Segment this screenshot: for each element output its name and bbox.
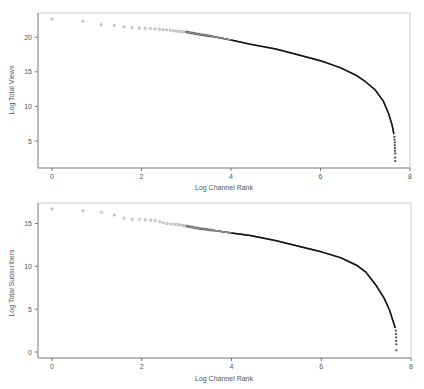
data-point xyxy=(51,18,53,20)
data-point xyxy=(393,136,395,138)
data-point xyxy=(173,223,175,225)
data-point xyxy=(149,27,151,29)
data-point xyxy=(123,217,125,219)
data-point xyxy=(144,27,146,29)
y-tick-label: 5 xyxy=(28,138,32,145)
data-point xyxy=(162,222,164,224)
data-point xyxy=(395,340,397,342)
x-tick-label: 0 xyxy=(50,363,54,370)
data-point xyxy=(396,349,398,351)
data-point xyxy=(175,30,177,32)
data-point xyxy=(394,153,396,155)
data-point xyxy=(396,343,398,345)
data-point xyxy=(394,144,396,146)
x-tick-label: 2 xyxy=(140,173,144,180)
x-tick-label: 8 xyxy=(408,173,412,180)
data-point xyxy=(138,218,140,220)
data-point xyxy=(394,160,396,162)
data-curve-light xyxy=(186,32,231,40)
data-point xyxy=(131,26,133,28)
y-axis-label: Log Total Views xyxy=(8,65,16,114)
data-curve-halo xyxy=(186,32,394,134)
data-point xyxy=(100,24,102,26)
data-point xyxy=(154,28,156,30)
plot-log-total-subscribers: 02468051015 Log Channel Rank Log Total S… xyxy=(0,195,424,389)
data-point xyxy=(394,147,396,149)
data-point xyxy=(100,211,102,213)
y-tick-label: 20 xyxy=(24,34,32,41)
data-point xyxy=(169,29,171,31)
y-tick-label: 15 xyxy=(24,220,32,227)
figure: 024685101520 Log Channel Rank Log Total … xyxy=(0,0,424,389)
data-point xyxy=(154,219,156,221)
data-point xyxy=(150,219,152,221)
x-tick-label: 4 xyxy=(229,173,233,180)
data-point xyxy=(162,29,164,31)
y-tick-label: 0 xyxy=(28,349,32,356)
data-curve xyxy=(187,226,396,328)
data-point xyxy=(395,330,397,332)
x-tick-label: 4 xyxy=(230,363,234,370)
data-point xyxy=(113,24,115,26)
data-point xyxy=(113,214,115,216)
data-point xyxy=(178,224,180,226)
data-curve-halo xyxy=(187,226,396,328)
plot-area: 024685101520 xyxy=(24,13,412,180)
data-point xyxy=(183,225,185,227)
x-tick-label: 6 xyxy=(319,173,323,180)
data-point xyxy=(144,219,146,221)
x-axis-label: Log Channel Rank xyxy=(195,375,253,383)
data-point xyxy=(158,28,160,30)
data-point xyxy=(175,223,177,225)
data-point xyxy=(51,208,53,210)
data-point xyxy=(159,221,161,223)
y-axis-label: Log Total Subscribers xyxy=(8,249,16,317)
data-point xyxy=(394,141,396,143)
y-tick-label: 10 xyxy=(24,263,32,270)
data-point xyxy=(394,139,396,141)
x-tick-label: 0 xyxy=(50,173,54,180)
data-point xyxy=(82,210,84,212)
data-point xyxy=(131,218,133,220)
data-point xyxy=(82,20,84,22)
data-point xyxy=(138,27,140,29)
data-point xyxy=(181,224,183,226)
data-curve-light xyxy=(187,226,232,233)
data-point xyxy=(169,223,171,225)
data-point xyxy=(172,30,174,32)
data-point xyxy=(165,29,167,31)
data-point xyxy=(166,222,168,224)
x-tick-label: 8 xyxy=(409,363,413,370)
data-point xyxy=(394,157,396,159)
y-tick-label: 15 xyxy=(24,68,32,75)
data-curve xyxy=(186,32,394,134)
data-point xyxy=(182,31,184,33)
y-tick-label: 10 xyxy=(24,103,32,110)
data-point xyxy=(395,333,397,335)
data-point xyxy=(394,150,396,152)
plot-area: 02468051015 xyxy=(24,203,413,370)
x-tick-label: 6 xyxy=(319,363,323,370)
data-point xyxy=(123,26,125,28)
x-tick-label: 2 xyxy=(140,363,144,370)
data-point xyxy=(178,30,180,32)
y-tick-label: 5 xyxy=(28,306,32,313)
plot-log-total-views: 024685101520 Log Channel Rank Log Total … xyxy=(0,0,424,195)
x-axis-label: Log Channel Rank xyxy=(195,184,253,192)
data-point xyxy=(395,337,397,339)
